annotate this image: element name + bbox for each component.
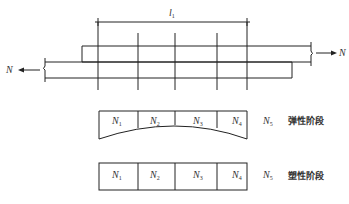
elastic-n1: N1	[112, 116, 122, 127]
elastic-stage-title: 弹性阶段	[288, 117, 324, 126]
right-break	[311, 42, 313, 66]
elastic-n2: N2	[150, 116, 160, 127]
force-right-label: N	[339, 48, 346, 58]
elastic-n5: N5	[263, 116, 273, 127]
arrow-left-head	[18, 68, 24, 73]
top-plate	[82, 46, 311, 62]
plastic-n4: N4	[232, 170, 242, 181]
plastic-stage-title: 塑性阶段	[288, 172, 324, 181]
plastic-n2: N2	[150, 170, 160, 181]
plastic-n5: N5	[263, 170, 273, 181]
elastic-n4: N4	[232, 116, 242, 127]
plastic-n1: N1	[112, 170, 122, 181]
arrow-right-head	[331, 51, 337, 56]
elastic-n3: N3	[193, 116, 203, 127]
bottom-plate	[45, 62, 292, 78]
left-break	[44, 58, 46, 82]
dimension-label: l1	[169, 8, 175, 19]
force-left-label: N	[6, 65, 13, 75]
plastic-n3: N3	[193, 170, 203, 181]
